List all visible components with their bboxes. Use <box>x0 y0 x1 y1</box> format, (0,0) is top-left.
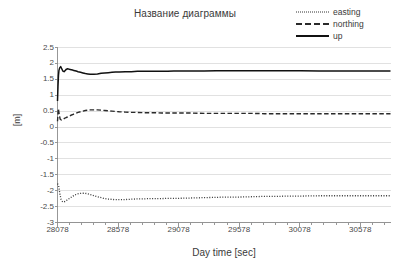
x-tick-label: 28578 <box>95 226 141 234</box>
x-axis-title: Day time [sec] <box>57 247 391 258</box>
y-tick-label: 1.5 <box>18 75 54 83</box>
legend-label-northing: northing <box>333 19 364 29</box>
x-tick-label: 28078 <box>35 226 81 234</box>
series-line-easting <box>58 184 391 202</box>
x-axis-tick-labels: 280782857829078295783007830578 <box>0 226 401 240</box>
x-tick-label: 29578 <box>216 226 262 234</box>
x-tick-label: 30078 <box>277 226 323 234</box>
legend-item-easting[interactable]: easting <box>296 6 400 18</box>
y-tick-label: -1.5 <box>18 171 54 179</box>
chart-title: Название диаграммы <box>60 8 310 19</box>
chart-legend: easting northing up <box>296 6 400 42</box>
legend-item-northing[interactable]: northing <box>296 18 400 30</box>
series-line-northing <box>58 109 391 122</box>
y-tick-label: -2 <box>18 187 54 195</box>
y-tick-label: -1 <box>18 155 54 163</box>
x-tick-label: 29078 <box>156 226 202 234</box>
y-tick-label: 2.5 <box>18 44 54 52</box>
series-line-up <box>58 67 391 101</box>
chart-container: Название диаграммы easting northing up [… <box>0 0 401 271</box>
x-tick-label: 30578 <box>337 226 383 234</box>
legend-swatch-dotted-icon <box>296 7 329 17</box>
legend-swatch-dashed-icon <box>296 19 329 29</box>
y-tick-label: 2 <box>18 59 54 67</box>
legend-swatch-solid-icon <box>296 31 329 41</box>
y-tick-label: -2.5 <box>18 203 54 211</box>
y-tick-label: 0.5 <box>18 107 54 115</box>
legend-item-up[interactable]: up <box>296 30 400 42</box>
y-tick-label: 1 <box>18 91 54 99</box>
legend-label-easting: easting <box>333 7 360 17</box>
y-tick-label: 0 <box>18 123 54 131</box>
y-tick-label: -0.5 <box>18 139 54 147</box>
legend-label-up: up <box>333 31 342 41</box>
